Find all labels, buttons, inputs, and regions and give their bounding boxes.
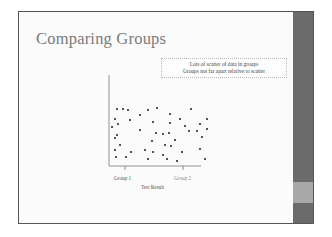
data-point (188, 130, 190, 132)
data-point (127, 109, 129, 111)
data-point (166, 158, 168, 160)
data-point (162, 133, 164, 135)
data-point (125, 156, 127, 158)
data-point (139, 114, 141, 116)
data-point (176, 160, 178, 162)
data-point (147, 109, 149, 111)
data-point (147, 158, 149, 160)
data-point (122, 108, 124, 110)
data-point (196, 130, 198, 132)
data-point (117, 123, 119, 125)
data-point (164, 144, 166, 146)
data-point (199, 148, 201, 150)
data-point (155, 132, 157, 134)
data-point (129, 119, 131, 121)
data-point (169, 113, 171, 115)
x-axis-label: Test Result (141, 184, 164, 190)
data-point (204, 158, 206, 160)
chart-axes (19, 12, 314, 224)
data-point (206, 128, 208, 130)
data-point (162, 154, 164, 156)
data-point (206, 118, 208, 120)
data-point (114, 137, 116, 139)
data-point (151, 140, 153, 142)
data-point (170, 145, 172, 147)
x-tick-group-2: Group 2 (174, 175, 191, 181)
data-point (156, 107, 158, 109)
data-point (184, 125, 186, 127)
data-point (119, 144, 121, 146)
data-point (116, 108, 118, 110)
data-point (130, 151, 132, 153)
data-point (199, 123, 201, 125)
data-point (179, 118, 181, 120)
data-point (152, 121, 154, 123)
data-point (116, 134, 118, 136)
data-point (169, 122, 171, 124)
slide: Comparing Groups Lots of scatter of data… (18, 11, 314, 224)
data-point (115, 156, 117, 158)
data-point (114, 118, 116, 120)
data-point (144, 149, 146, 151)
data-point (181, 151, 183, 153)
data-point (168, 132, 170, 134)
data-point (174, 139, 176, 141)
data-point (111, 126, 113, 128)
data-point (139, 129, 141, 131)
x-tick-group-1: Group 1 (114, 175, 131, 181)
data-point (152, 151, 154, 153)
data-point (201, 136, 203, 138)
scatter-chart: Group 1 Group 2 Test Result (19, 12, 314, 224)
data-point (190, 108, 192, 110)
data-point (114, 149, 116, 151)
